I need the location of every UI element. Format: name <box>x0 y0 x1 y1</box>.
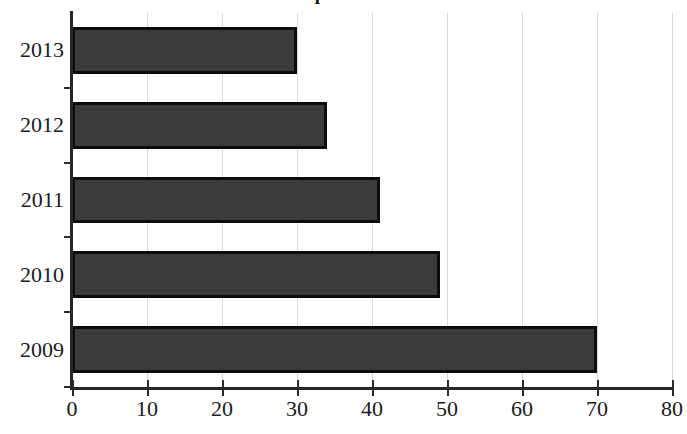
y-axis-label-2009: 2009 <box>0 339 64 361</box>
x-axis-tick <box>447 380 449 396</box>
x-axis-tick <box>522 380 524 396</box>
y-axis-tick <box>64 311 73 313</box>
x-axis-tick <box>297 380 299 396</box>
y-axis-label-2010: 2010 <box>0 264 64 286</box>
bar-2010 <box>72 251 440 298</box>
x-axis-tick <box>597 380 599 396</box>
x-axis-label-20: 20 <box>192 398 252 420</box>
x-axis-tick <box>672 380 674 396</box>
y-axis-label-2011: 2011 <box>0 189 64 211</box>
x-axis-tick <box>72 380 74 396</box>
x-axis-label-10: 10 <box>117 398 177 420</box>
x-axis-tick <box>372 380 374 396</box>
y-axis-tick <box>64 162 73 164</box>
x-axis-tick <box>147 380 149 396</box>
bar-chart: rate per 100 000 20132012201120102009 01… <box>0 0 687 434</box>
x-axis-label-40: 40 <box>342 398 402 420</box>
y-axis-tick <box>64 236 73 238</box>
x-axis-label-30: 30 <box>267 398 327 420</box>
x-axis-label-60: 60 <box>492 398 552 420</box>
bar-2011 <box>72 177 380 224</box>
y-axis-label-2013: 2013 <box>0 39 64 61</box>
x-axis-label-0: 0 <box>42 398 102 420</box>
x-axis-label-80: 80 <box>642 398 687 420</box>
bar-2013 <box>72 27 297 74</box>
chart-title: rate per 100 000 <box>0 0 687 5</box>
y-axis-line <box>70 11 73 389</box>
gridline <box>672 13 673 387</box>
bar-2012 <box>72 102 327 149</box>
y-axis-tick <box>64 87 73 89</box>
y-axis-label-2012: 2012 <box>0 114 64 136</box>
x-axis-label-70: 70 <box>567 398 627 420</box>
gridline <box>597 13 598 387</box>
x-axis-label-50: 50 <box>417 398 477 420</box>
x-axis-tick <box>222 380 224 396</box>
bar-2009 <box>72 326 597 373</box>
plot-area <box>72 13 672 387</box>
